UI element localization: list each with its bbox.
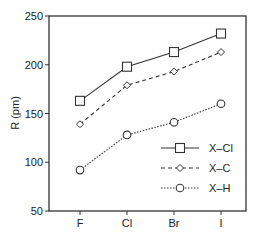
x-tick-label: F xyxy=(77,217,84,229)
legend-label: X–C xyxy=(209,162,230,174)
line-chart: 50100150200250 FClBrI X–ClX–CX–H R (pm) xyxy=(0,0,258,237)
data-series xyxy=(76,29,226,174)
square-marker-icon xyxy=(76,96,85,105)
circle-marker-icon xyxy=(170,118,178,126)
x-tick-label: I xyxy=(219,217,222,229)
legend-item: X–Cl xyxy=(161,142,233,154)
square-marker-icon xyxy=(170,48,179,57)
square-marker-icon xyxy=(123,62,132,71)
y-tick-label: 50 xyxy=(31,205,43,217)
diamond-marker-icon xyxy=(218,49,225,56)
y-tick-label: 150 xyxy=(25,108,43,120)
legend-item: X–H xyxy=(161,182,230,194)
series-line xyxy=(80,52,221,124)
series-circle xyxy=(76,100,225,174)
x-axis: FClBrI xyxy=(77,211,223,229)
legend-item: X–C xyxy=(161,162,230,174)
y-tick-label: 250 xyxy=(25,10,43,22)
circle-marker-icon xyxy=(76,166,84,174)
diamond-marker-icon xyxy=(171,68,178,75)
y-tick-label: 200 xyxy=(25,59,43,71)
x-tick-label: Cl xyxy=(122,217,132,229)
circle-legend-icon xyxy=(176,184,184,192)
square-legend-icon xyxy=(176,144,185,153)
circle-marker-icon xyxy=(217,100,225,108)
y-axis-label: R (pm) xyxy=(9,96,21,130)
series-line xyxy=(80,34,221,101)
square-marker-icon xyxy=(217,29,226,38)
series-diamond xyxy=(77,49,225,128)
y-axis: 50100150200250 xyxy=(25,10,49,217)
diamond-legend-icon xyxy=(177,165,184,172)
series-line xyxy=(80,104,221,170)
circle-marker-icon xyxy=(123,131,131,139)
series-square xyxy=(76,29,226,105)
y-tick-label: 100 xyxy=(25,156,43,168)
x-tick-label: Br xyxy=(169,217,180,229)
legend-label: X–H xyxy=(209,182,230,194)
legend-label: X–Cl xyxy=(209,142,233,154)
legend: X–ClX–CX–H xyxy=(161,142,233,194)
